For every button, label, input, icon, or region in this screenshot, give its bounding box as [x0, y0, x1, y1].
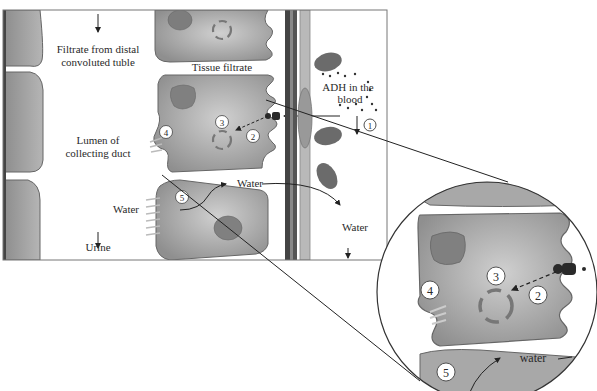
left-cell-mid	[3, 72, 43, 172]
water-label-right: Water	[342, 221, 368, 233]
lumen-label-2: collecting duct	[65, 147, 130, 159]
svg-text:3: 3	[493, 270, 499, 284]
adh-label: ADH in the	[322, 81, 373, 93]
adh-label-2: blood	[337, 93, 363, 105]
svg-text:5: 5	[443, 366, 449, 380]
urine-label: Urine	[85, 241, 110, 253]
filtrate-label-2: convoluted tuble	[61, 56, 135, 68]
main-panel: Filtrate from distal convoluted tuble Ti…	[3, 10, 387, 260]
zoom-step-badge-3: 3	[487, 267, 505, 285]
zoom-step-badge-4: 4	[421, 281, 439, 299]
lumen-label: Lumen of	[76, 134, 119, 146]
filtrate-label: Filtrate from distal	[57, 43, 139, 55]
step-badge-1: 1	[364, 119, 376, 131]
tissue-filtrate-label: Tissue filtrate	[192, 61, 253, 73]
svg-text:5: 5	[180, 193, 185, 203]
svg-text:4: 4	[427, 284, 433, 298]
water-label-mid: Water	[237, 177, 263, 189]
step-badge-4: 4	[160, 126, 173, 139]
nucleus-zoomed	[430, 232, 465, 265]
left-cell-bottom	[3, 180, 40, 260]
svg-text:2: 2	[251, 132, 256, 142]
water-label-zoom: water	[520, 351, 547, 365]
zoom-step-badge-5: 5	[437, 363, 455, 381]
upper-cell	[155, 10, 273, 62]
svg-text:2: 2	[535, 289, 541, 303]
zoom-step-badge-2: 2	[529, 286, 547, 304]
svg-text:4: 4	[164, 128, 169, 138]
nucleus	[170, 85, 195, 109]
step-badge-3: 3	[216, 116, 229, 129]
svg-text:1: 1	[368, 121, 373, 131]
water-label-left: Water	[113, 203, 139, 215]
left-cell-top	[3, 10, 43, 66]
lower-cell	[146, 180, 268, 260]
step-badge-2: 2	[247, 130, 260, 143]
adh-collecting-duct-diagram: Filtrate from distal convoluted tuble Ti…	[0, 0, 597, 391]
step-badge-5: 5	[176, 191, 189, 204]
svg-text:3: 3	[220, 118, 225, 128]
